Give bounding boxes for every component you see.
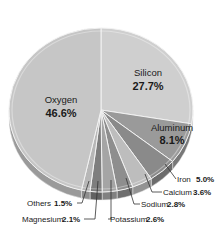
- pie-chart: Silicon 27.7% Oxygen 46.6% Aluminum 8.1%…: [0, 0, 219, 239]
- label-silicon-name: Silicon: [134, 67, 162, 78]
- svg-text:Iron: Iron: [177, 175, 191, 184]
- svg-text:Sodium: Sodium: [141, 200, 168, 209]
- pie-side-magnesium: [90, 191, 102, 200]
- svg-text:Potassium: Potassium: [110, 215, 148, 224]
- label-aluminum-name: Aluminum: [151, 122, 193, 133]
- svg-text:Magnesium: Magnesium: [22, 215, 64, 224]
- label-aluminum-value: 8.1%: [159, 134, 184, 146]
- svg-text:2.6%: 2.6%: [146, 215, 164, 224]
- label-iron: Iron 5.0%: [177, 175, 214, 184]
- svg-text:2.8%: 2.8%: [167, 200, 185, 209]
- label-sodium: Sodium 2.8%: [141, 200, 185, 209]
- svg-text:Calcium: Calcium: [163, 188, 192, 197]
- label-silicon-value: 27.7%: [132, 80, 163, 92]
- svg-text:2.1%: 2.1%: [62, 215, 80, 224]
- label-others: Others 1.5%: [27, 199, 72, 208]
- svg-text:3.6%: 3.6%: [193, 188, 211, 197]
- label-oxygen-value: 46.6%: [45, 107, 76, 119]
- svg-text:1.5%: 1.5%: [54, 199, 72, 208]
- svg-text:Others: Others: [27, 199, 51, 208]
- label-oxygen-name: Oxygen: [45, 94, 78, 105]
- pie-slices: [9, 28, 193, 192]
- label-magnesium: Magnesium 2.1%: [22, 215, 80, 224]
- label-potassium: Potassium 2.6%: [110, 215, 164, 224]
- svg-text:5.0%: 5.0%: [196, 175, 214, 184]
- label-calcium: Calcium 3.6%: [163, 188, 211, 197]
